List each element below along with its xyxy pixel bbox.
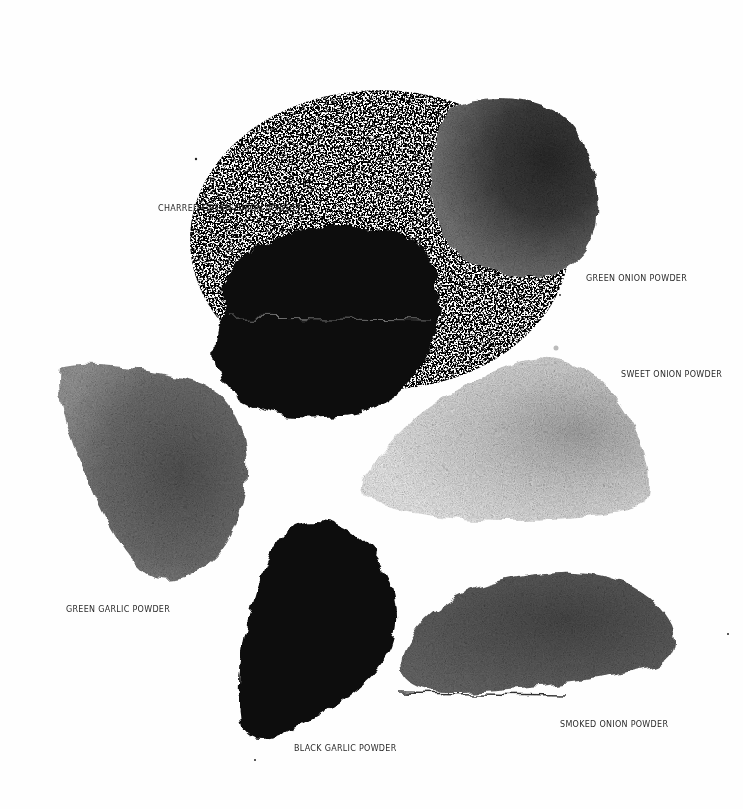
powder-piles-illustration: [0, 0, 743, 809]
label-green-garlic-powder: GREEN GARLIC POWDER: [66, 604, 170, 614]
label-charred-green-onion-powder: CHARRED GREEN ONION POWDER: [158, 203, 303, 213]
photo-canvas: CHARRED GREEN ONION POWDER GREEN ONION P…: [0, 0, 743, 809]
label-smoked-onion-powder: SMOKED ONION POWDER: [560, 719, 668, 729]
pile-black-garlic: [239, 521, 397, 739]
pile-green-garlic: [59, 365, 247, 580]
label-sweet-onion-powder: SWEET ONION POWDER: [621, 369, 722, 379]
label-green-onion-powder: GREEN ONION POWDER: [586, 273, 687, 283]
label-black-garlic-powder: BLACK GARLIC POWDER: [294, 743, 397, 753]
pile-smoked-onion: [400, 572, 675, 695]
pile-charred-green-onion: [215, 227, 438, 418]
pile-green-onion: [431, 98, 597, 276]
